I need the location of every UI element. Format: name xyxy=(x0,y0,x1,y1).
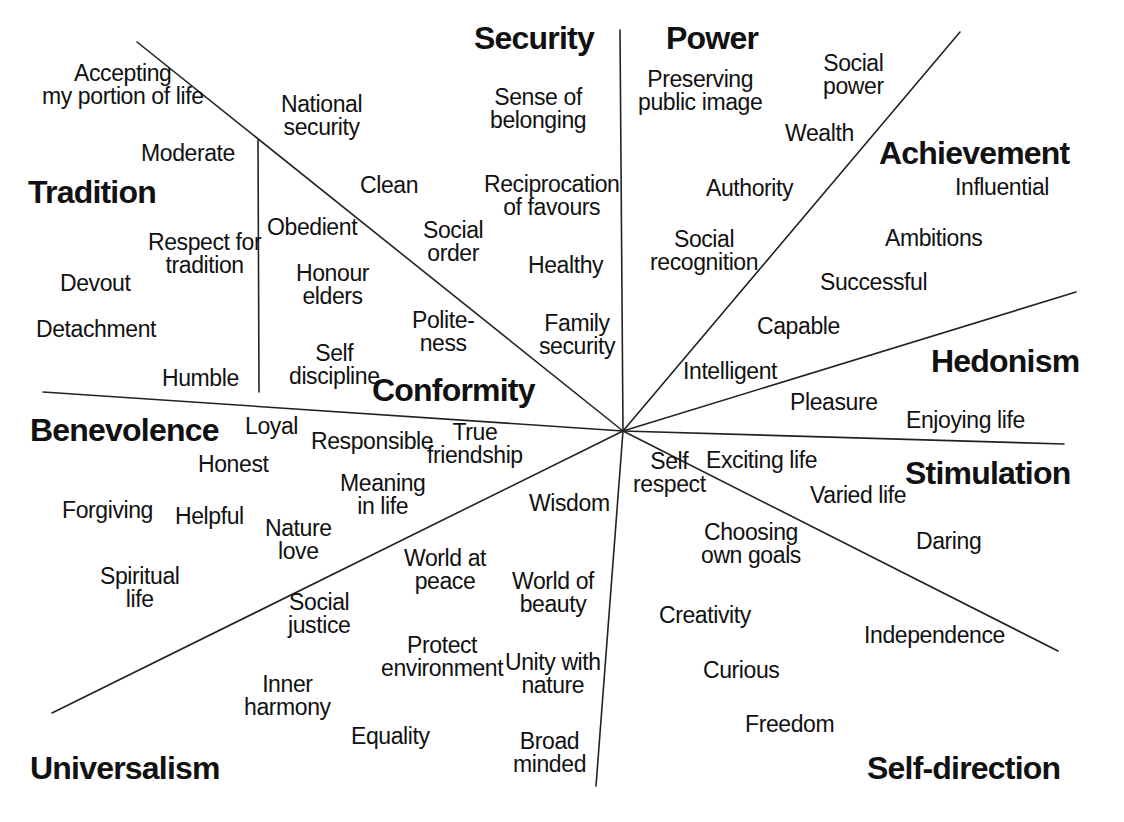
value-label-line: Inner xyxy=(244,673,331,696)
value-label-line: Capable xyxy=(757,315,840,338)
value-label-true-friendship: Truefriendship xyxy=(427,421,523,468)
value-label-respect-for-tradition: Respect fortradition xyxy=(148,231,261,278)
value-label-line: Authority xyxy=(706,177,793,200)
value-label-line: Wealth xyxy=(785,122,854,145)
domain-label-line: Achievement xyxy=(879,137,1069,170)
value-label-successful: Successful xyxy=(820,271,927,294)
value-label-line: of favours xyxy=(484,196,619,219)
value-label-line: Humble xyxy=(162,367,239,390)
value-label-line: recognition xyxy=(650,251,758,274)
value-label-line: Meaning xyxy=(340,472,425,495)
value-label-line: Enjoying life xyxy=(906,409,1025,432)
value-label-line: Successful xyxy=(820,271,927,294)
value-label-reciprocation-of-favours: Reciprocationof favours xyxy=(484,173,619,220)
value-label-line: Pleasure xyxy=(790,391,878,414)
value-label-loyal: Loyal xyxy=(245,415,298,438)
value-label-line: Broad xyxy=(513,730,586,753)
value-label-freedom: Freedom xyxy=(745,713,834,736)
value-label-line: Wisdom xyxy=(529,492,610,515)
value-label-line: Healthy xyxy=(528,254,603,277)
value-label-line: discipline xyxy=(289,365,380,388)
value-label-line: Respect for xyxy=(148,231,261,254)
value-label-meaning-in-life: Meaningin life xyxy=(340,472,425,519)
value-label-line: harmony xyxy=(244,696,331,719)
value-label-line: peace xyxy=(404,570,486,593)
value-label-broad-minded: Broadminded xyxy=(513,730,586,777)
value-label-intelligent: Intelligent xyxy=(683,360,777,383)
value-label-line: Preserving xyxy=(638,68,762,91)
value-label-line: nature xyxy=(505,674,601,697)
value-label-line: Social xyxy=(823,52,884,75)
value-label-national-security: Nationalsecurity xyxy=(281,93,362,140)
value-label-creativity: Creativity xyxy=(659,604,751,627)
value-label-line: minded xyxy=(513,753,586,776)
value-label-capable: Capable xyxy=(757,315,840,338)
value-label-preserving-public-image: Preservingpublic image xyxy=(638,68,762,115)
value-label-line: Social xyxy=(288,591,350,614)
value-label-social-power: Socialpower xyxy=(823,52,884,99)
value-label-line: belonging xyxy=(490,109,586,132)
value-label-honour-elders: Honourelders xyxy=(296,262,369,309)
value-label-exciting-life: Exciting life xyxy=(706,449,817,472)
value-label-line: Loyal xyxy=(245,415,298,438)
domain-label-line: Hedonism xyxy=(931,345,1079,378)
value-label-line: justice xyxy=(288,614,350,637)
value-label-line: Sense of xyxy=(490,86,586,109)
domain-label-self-direction: Self-direction xyxy=(867,752,1060,785)
value-label-line: World at xyxy=(404,547,486,570)
domain-label-line: Stimulation xyxy=(905,457,1070,490)
value-label-line: power xyxy=(823,75,884,98)
value-label-line: Forgiving xyxy=(62,499,153,522)
domain-label-universalism: Universalism xyxy=(30,752,220,785)
domain-label-conformity: Conformity xyxy=(372,374,535,407)
value-label-line: Varied life xyxy=(810,484,906,507)
value-label-humble: Humble xyxy=(162,367,239,390)
value-label-line: friendship xyxy=(427,444,523,467)
value-label-accepting-my-portion-of-life: Acceptingmy portion of life xyxy=(42,62,204,109)
value-label-line: Obedient xyxy=(267,216,357,239)
divider-line-selfdir-universalism xyxy=(596,431,623,786)
value-label-line: Influential xyxy=(955,176,1049,199)
value-label-choosing-own-goals: Choosingown goals xyxy=(701,521,801,568)
value-label-sense-of-belonging: Sense ofbelonging xyxy=(490,86,586,133)
value-label-line: public image xyxy=(638,91,762,114)
value-label-helpful: Helpful xyxy=(175,505,244,528)
value-label-line: Exciting life xyxy=(706,449,817,472)
value-label-world-of-beauty: World ofbeauty xyxy=(512,570,594,617)
value-label-line: environment xyxy=(381,657,503,680)
value-label-line: Moderate xyxy=(141,142,235,165)
value-label-self-discipline: Selfdiscipline xyxy=(289,342,380,389)
domain-label-tradition: Tradition xyxy=(28,176,156,209)
value-label-clean: Clean xyxy=(360,174,418,197)
value-label-line: own goals xyxy=(701,544,801,567)
value-label-inner-harmony: Innerharmony xyxy=(244,673,331,720)
value-label-line: tradition xyxy=(148,254,261,277)
domain-label-line: Security xyxy=(474,22,594,55)
value-label-social-recognition: Socialrecognition xyxy=(650,228,758,275)
domain-label-line: Tradition xyxy=(28,176,156,209)
value-label-enjoying-life: Enjoying life xyxy=(906,409,1025,432)
value-label-wealth: Wealth xyxy=(785,122,854,145)
value-label-line: Detachment xyxy=(36,318,156,341)
domain-label-power: Power xyxy=(666,22,758,55)
domain-label-line: Self-direction xyxy=(867,752,1060,785)
value-label-unity-with-nature: Unity withnature xyxy=(505,651,601,698)
value-label-line: Helpful xyxy=(175,505,244,528)
value-label-line: ness xyxy=(412,332,474,355)
value-label-line: Polite- xyxy=(412,309,474,332)
value-label-healthy: Healthy xyxy=(528,254,603,277)
value-label-self-respect: Selfrespect xyxy=(633,450,706,497)
value-label-line: Honour xyxy=(296,262,369,285)
value-label-influential: Influential xyxy=(955,176,1049,199)
value-label-line: life xyxy=(100,588,180,611)
value-label-detachment: Detachment xyxy=(36,318,156,341)
value-label-forgiving: Forgiving xyxy=(62,499,153,522)
value-label-line: Independence xyxy=(864,624,1005,647)
value-label-line: Creativity xyxy=(659,604,751,627)
value-label-independence: Independence xyxy=(864,624,1005,647)
value-label-social-order: Socialorder xyxy=(423,219,483,266)
value-label-line: love xyxy=(265,540,332,563)
value-label-responsible: Responsible xyxy=(311,430,433,453)
value-label-line: Family xyxy=(539,312,615,335)
value-label-line: World of xyxy=(512,570,594,593)
